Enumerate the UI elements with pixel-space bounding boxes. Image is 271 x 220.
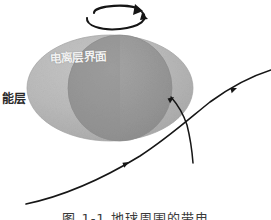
- inner-core-label: 电离层界面: [49, 50, 107, 65]
- figure-container: 能层 电离层界面 图 1-1 地球周围的带电: [0, 0, 271, 220]
- figure-caption: 图 1-1 地球周围的带电: [0, 208, 271, 220]
- outer-layer-label: 能层: [2, 93, 25, 105]
- rotation-arrow-icon: [87, 4, 148, 29]
- figure-canvas: [0, 0, 271, 220]
